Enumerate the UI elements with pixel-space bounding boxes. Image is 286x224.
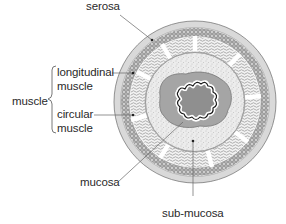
muscle-brace [48, 66, 56, 133]
label-sub-mucosa: sub-mucosa [162, 207, 224, 220]
label-circular-muscle-line1: circular [57, 108, 93, 121]
lumen [177, 82, 216, 119]
label-longitudinal-muscle-line1: longitudinal [57, 66, 114, 79]
label-longitudinal-muscle-line2: muscle [57, 80, 93, 93]
label-serosa: serosa [86, 0, 120, 13]
serosa-leader [120, 15, 152, 40]
label-muscle-group: muscle [12, 95, 48, 108]
cross-section-figure [0, 0, 286, 224]
gut-cross-section-diagram: serosa longitudinal muscle muscle circul… [0, 0, 286, 224]
label-mucosa: mucosa [80, 176, 120, 189]
label-circular-muscle-line2: muscle [57, 122, 93, 135]
